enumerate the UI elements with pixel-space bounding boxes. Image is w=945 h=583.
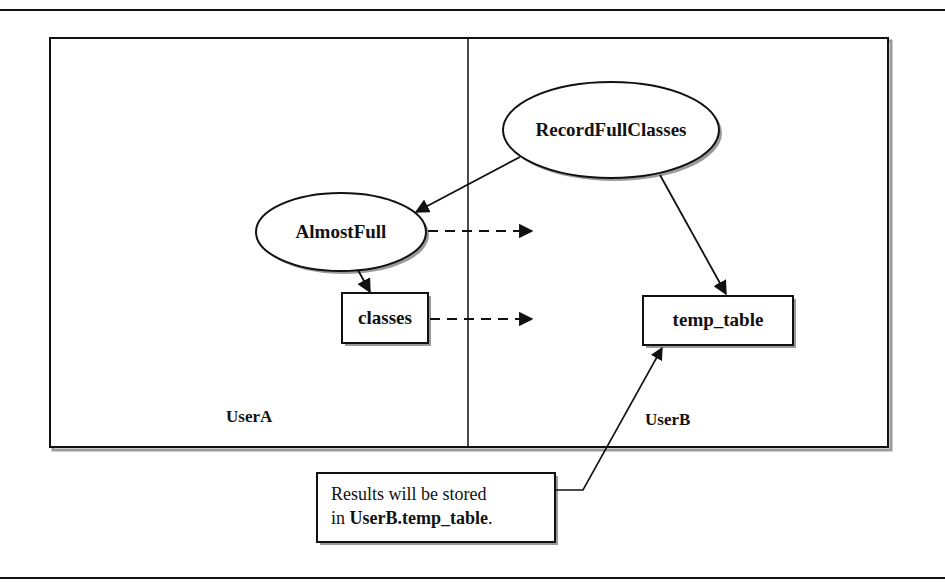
schema-container [50, 38, 888, 447]
callout-line-1: Results will be stored [331, 482, 493, 506]
temp-table-label: temp_table [673, 309, 764, 331]
classes-label: classes [358, 307, 412, 329]
zone-label-usera: UserA [226, 407, 272, 427]
callout-line-2: in UserB.temp_table. [331, 506, 493, 530]
record-full-classes-label: RecordFullClasses [536, 119, 687, 141]
almost-full-label: AlmostFull [296, 221, 387, 243]
callout-text: Results will be stored in UserB.temp_tab… [331, 482, 493, 530]
zone-label-userb: UserB [645, 410, 690, 430]
